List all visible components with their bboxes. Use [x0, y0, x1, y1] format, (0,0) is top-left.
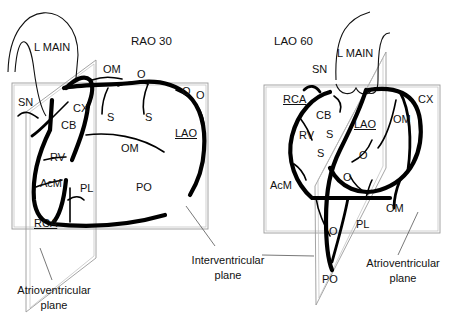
label-o-right2-rao: O — [196, 90, 205, 101]
label-cb-rao: CB — [61, 120, 76, 131]
label-pl-lao: PL — [356, 219, 369, 230]
label-po-lao: PO — [322, 274, 338, 285]
view-title-rao: RAO 30 — [131, 36, 172, 48]
label-sn-rao: SN — [18, 97, 33, 108]
label-sn-lao: SN — [312, 64, 327, 75]
view-title-lao: LAO 60 — [274, 36, 313, 48]
atrioventricular-leader-lao — [398, 212, 418, 255]
label-acm-lao: AcM — [270, 180, 292, 191]
label-s2-rao: S — [145, 112, 152, 123]
label-cb-lao: CB — [316, 110, 331, 121]
label-o2-lao: O — [343, 172, 352, 183]
label-rv-lao: RV — [299, 130, 314, 141]
label-o-right1-rao: O — [182, 86, 191, 97]
label-om-bottom-lao: OM — [386, 203, 404, 214]
caption-atrioventricular-lao: Atrioventricular plane — [359, 256, 447, 286]
label-o3-lao: O — [329, 226, 338, 237]
label-l-main-lao: L MAIN — [337, 48, 373, 59]
label-om-mid-rao: OM — [121, 143, 139, 154]
label-l-main-rao: L MAIN — [34, 42, 70, 53]
atrioventricular-leader-rao — [40, 248, 52, 280]
label-o1-lao: O — [359, 150, 368, 161]
caption-line2: plane — [41, 299, 68, 311]
caption-line2: plane — [390, 272, 417, 284]
label-rca-rao: RCA — [34, 218, 57, 229]
caption-line1: Interventricular — [192, 254, 265, 266]
label-cx-rao: CX — [73, 103, 88, 114]
label-lao-rao: LAO — [175, 128, 197, 139]
label-lao-lao: LAO — [354, 119, 376, 130]
label-rca-lao: RCA — [283, 94, 306, 105]
label-s1-rao: S — [107, 112, 114, 123]
caption-atrioventricular-rao: Atrioventricular plane — [10, 283, 98, 313]
label-om-top-lao: OM — [393, 114, 411, 125]
label-po-rao: PO — [136, 182, 152, 193]
label-s2-lao: S — [317, 148, 324, 159]
label-rv-rao: RV — [50, 152, 65, 163]
caption-line2: plane — [215, 269, 242, 281]
caption-line1: Atrioventricular — [366, 257, 439, 269]
label-cx-lao: CX — [418, 94, 433, 105]
caption-interventricular: Interventricular plane — [178, 253, 278, 283]
interventricular-leader-rao — [186, 206, 215, 246]
aorta-outline-lao — [336, 12, 370, 80]
label-om-top-rao: OM — [103, 64, 121, 75]
label-s1-lao: S — [326, 129, 333, 140]
label-acm-rao: AcM — [40, 178, 62, 189]
caption-line1: Atrioventricular — [17, 284, 90, 296]
label-o-top-rao: O — [137, 69, 146, 80]
label-pl-rao: PL — [80, 183, 93, 194]
